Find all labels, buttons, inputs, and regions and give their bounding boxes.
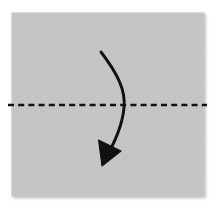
origami-diagram: Origami valley fold step Square sheet wi…: [0, 0, 218, 209]
diagram-canvas: [0, 0, 218, 209]
